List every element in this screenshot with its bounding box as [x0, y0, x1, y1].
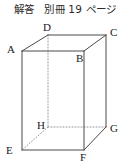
vertex-label-H: H	[37, 120, 45, 131]
edge-CB	[84, 35, 106, 51]
cuboid-svg	[0, 20, 130, 166]
edge-AD	[22, 35, 48, 51]
vertex-label-G: G	[110, 123, 118, 134]
edge-GF	[84, 127, 106, 150]
vertex-label-C: C	[110, 27, 117, 38]
vertex-label-F: F	[80, 152, 86, 163]
page-root: 解答 別冊 19 ページ ABCDEFGH	[0, 0, 130, 166]
vertex-label-E: E	[6, 145, 13, 156]
cuboid-figure: ABCDEFGH	[0, 20, 130, 166]
page-header-text: 解答 別冊 19 ページ	[0, 2, 130, 16]
vertex-label-A: A	[7, 44, 15, 55]
visible-edges-group	[22, 35, 106, 150]
vertex-label-D: D	[43, 22, 51, 33]
vertex-label-B: B	[76, 53, 83, 64]
hidden-edges-group	[22, 35, 106, 150]
